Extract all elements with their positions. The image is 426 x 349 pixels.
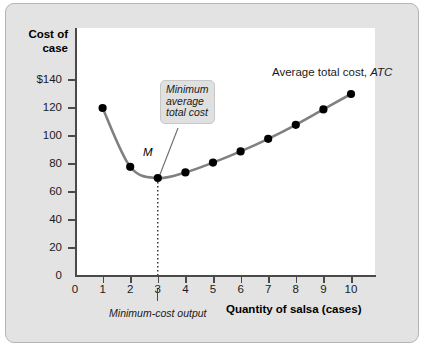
callout-leader-line (160, 128, 178, 175)
point-m-label: M (143, 146, 153, 158)
data-point-q1 (99, 104, 107, 112)
data-point-q2 (126, 163, 134, 171)
series-label-text: Average total cost, (272, 66, 367, 78)
minimum-average-total-cost-callout: Minimum average total cost (160, 80, 215, 124)
data-point-q9 (319, 105, 327, 113)
data-point-q3 (154, 174, 162, 182)
data-point-q7 (264, 135, 272, 143)
figure-container: Cost of case Quantity of salsa (cases) $… (0, 0, 426, 349)
series-label-abbrev: ATC (370, 66, 392, 78)
minimum-cost-output-tick (157, 289, 158, 301)
data-point-q5 (209, 159, 217, 167)
callout-line-3: total cost (166, 106, 208, 118)
data-point-q10 (347, 90, 355, 98)
data-point-markers (99, 90, 356, 182)
callout-line-2: average (166, 95, 204, 107)
callout-line-1: Minimum (166, 83, 209, 95)
minimum-cost-output-label: Minimum-cost output (78, 307, 238, 319)
atc-curve-path (103, 94, 351, 178)
atc-curve-svg (0, 0, 426, 349)
data-point-q4 (181, 168, 189, 176)
data-point-q6 (237, 147, 245, 155)
series-label-atc: Average total cost, ATC (272, 66, 392, 78)
data-point-q8 (292, 121, 300, 129)
